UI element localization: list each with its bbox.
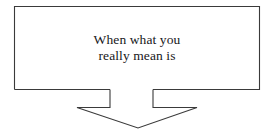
down-arrow xyxy=(77,90,197,129)
message-box xyxy=(15,7,260,90)
diagram-canvas: When what you really mean is xyxy=(0,0,277,140)
flowchart-svg xyxy=(0,0,277,140)
